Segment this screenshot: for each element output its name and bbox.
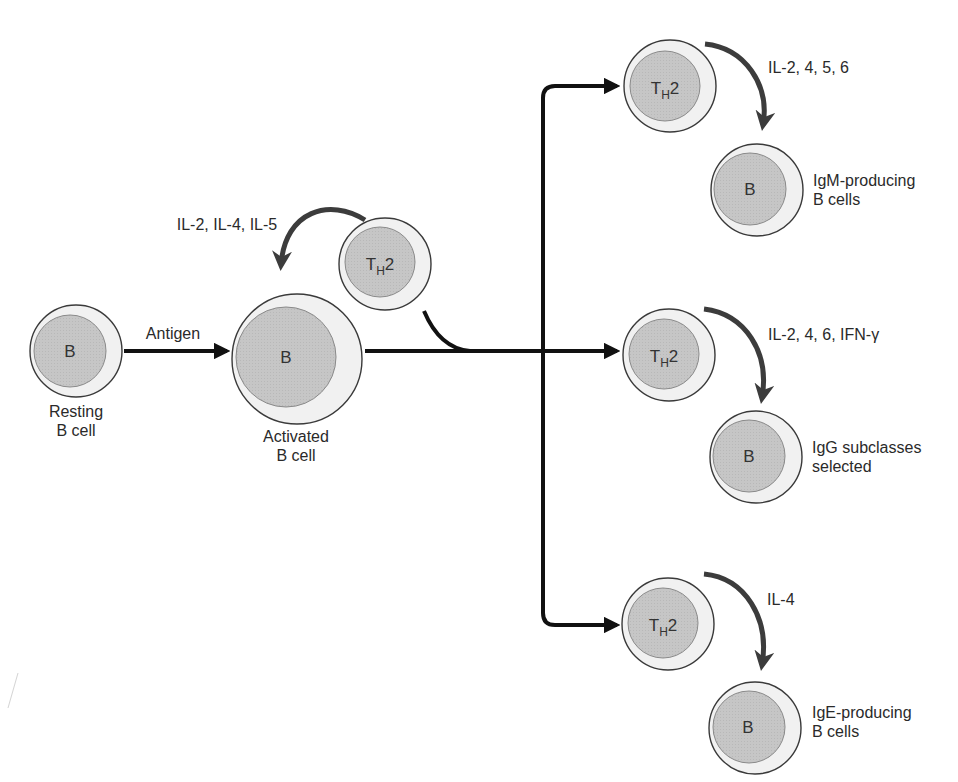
th-subscript: H	[660, 356, 669, 370]
branch-igg-cytokines: IL-2, 4, 6, IFN-γ	[768, 326, 879, 343]
branch-ige-b-letter: B	[742, 718, 753, 737]
branch-igg-label-2: selected	[812, 458, 872, 475]
activated-b-cell-letter: B	[280, 348, 291, 367]
branch-igg: TH2 IL-2, 4, 6, IFN-γ B IgG subclasses s…	[623, 309, 921, 503]
resting-b-cell-label-2: B cell	[56, 422, 95, 439]
helper-merge-line	[424, 311, 470, 351]
branch-igg-b-letter: B	[743, 447, 754, 466]
branch-ige-label-2: B cells	[812, 723, 859, 740]
th-main: T	[649, 616, 659, 635]
resting-b-cell: B	[30, 305, 122, 397]
th-main: T	[650, 347, 660, 366]
th-suffix: 2	[669, 347, 678, 366]
branch-igm-label-2: B cells	[813, 191, 860, 208]
th-subscript: H	[659, 625, 668, 639]
th-subscript: H	[661, 88, 670, 102]
helper-th2-cell: TH2	[339, 218, 431, 310]
branch-connector	[543, 86, 617, 625]
branch-igm-th2-nucleus	[630, 51, 700, 121]
branch-igm-b-letter: B	[744, 180, 755, 199]
th-main: T	[651, 79, 661, 98]
branch-ige-cytokines: IL-4	[767, 591, 795, 608]
branch-igg-label-1: IgG subclasses	[812, 439, 921, 456]
th-subscript: H	[376, 264, 385, 278]
activated-b-cell-label-1: Activated	[263, 428, 329, 445]
helper-th2-nucleus	[345, 227, 415, 297]
branch-igg-th2-nucleus	[629, 319, 699, 389]
th-suffix: 2	[668, 616, 677, 635]
branch-ige: TH2 IL-4 B IgE-producing B cells	[622, 574, 912, 774]
helper-cytokines-label: IL-2, IL-4, IL-5	[177, 216, 278, 233]
branch-igm-cytokines: IL-2, 4, 5, 6	[768, 59, 849, 76]
activated-b-cell-label-2: B cell	[276, 447, 315, 464]
branch-igm-label-1: IgM-producing	[813, 172, 915, 189]
diagram-canvas: B Resting B cell Antigen B Activated B c…	[0, 0, 958, 782]
resting-b-cell-letter: B	[64, 342, 75, 361]
scan-artifact	[8, 673, 18, 708]
branch-ige-th2-nucleus	[628, 588, 698, 658]
th-main: T	[366, 255, 376, 274]
th-suffix: 2	[385, 255, 394, 274]
branch-ige-label-1: IgE-producing	[812, 704, 912, 721]
branch-igm: TH2 IL-2, 4, 5, 6 B IgM-producing B cell…	[624, 40, 915, 236]
resting-b-cell-label-1: Resting	[49, 403, 103, 420]
antigen-label: Antigen	[146, 325, 200, 342]
activated-b-cell: B	[232, 294, 362, 424]
th-suffix: 2	[670, 79, 679, 98]
